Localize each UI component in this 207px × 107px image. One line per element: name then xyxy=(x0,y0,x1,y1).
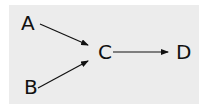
edge-b-to-c xyxy=(38,61,88,88)
edge-a-to-c xyxy=(40,24,88,45)
edges-layer xyxy=(0,0,207,107)
